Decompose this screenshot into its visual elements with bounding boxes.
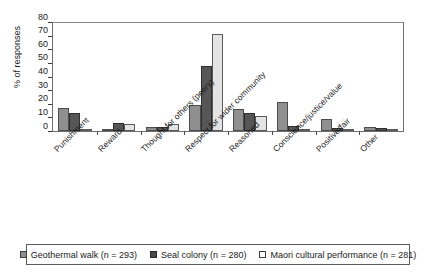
bar-group xyxy=(321,22,355,131)
x-tick-mark xyxy=(184,131,185,135)
y-tick-label: 60 xyxy=(24,39,48,48)
x-axis-tick-marks xyxy=(53,131,403,136)
bar-group xyxy=(58,22,92,131)
y-tick-label: 10 xyxy=(24,107,48,116)
legend-label: Seal colony (n = 280) xyxy=(161,250,246,260)
y-axis-tick-labels: 01020304050607080 xyxy=(24,16,48,132)
y-tick-mark xyxy=(48,49,52,50)
y-tick-mark xyxy=(48,104,52,105)
legend-item: Seal colony (n = 280) xyxy=(150,250,246,260)
bar xyxy=(277,102,288,131)
y-tick-mark xyxy=(48,63,52,64)
y-tick-label: 80 xyxy=(24,12,48,21)
legend-swatch-icon xyxy=(259,251,266,258)
legend-label: Geothermal walk (n = 293) xyxy=(31,250,137,260)
y-tick-mark xyxy=(48,22,52,23)
legend-label: Maori cultural performance (n = 281) xyxy=(270,250,416,260)
chart-legend: Geothermal walk (n = 293)Seal colony (n … xyxy=(26,244,410,265)
x-tick-mark xyxy=(272,131,273,135)
y-tick-label: 70 xyxy=(24,26,48,35)
x-tick-mark xyxy=(228,131,229,135)
bar xyxy=(124,124,135,131)
x-axis-category-labels: PunishmentRewardThought for others (peer… xyxy=(0,137,436,229)
y-tick-mark xyxy=(48,36,52,37)
bar-group xyxy=(364,22,398,131)
y-tick-label: 0 xyxy=(24,121,48,130)
x-tick-mark xyxy=(359,131,360,135)
y-tick-mark xyxy=(48,131,52,132)
bar xyxy=(58,108,69,131)
x-tick-mark xyxy=(316,131,317,135)
y-tick-label: 50 xyxy=(24,53,48,62)
y-tick-mark xyxy=(48,117,52,118)
legend-item: Maori cultural performance (n = 281) xyxy=(259,250,416,260)
y-tick-label: 30 xyxy=(24,80,48,89)
y-tick-mark xyxy=(48,90,52,91)
y-tick-label: 40 xyxy=(24,67,48,76)
x-tick-mark xyxy=(141,131,142,135)
legend-swatch-icon xyxy=(150,251,157,258)
bar xyxy=(233,109,244,131)
y-axis-title: % of responses xyxy=(12,9,22,105)
bar-chart-figure: % of responses 01020304050607080 Punishm… xyxy=(0,0,436,275)
y-tick-label: 20 xyxy=(24,94,48,103)
x-tick-mark xyxy=(97,131,98,135)
legend-item: Geothermal walk (n = 293) xyxy=(20,250,137,260)
bar-group xyxy=(102,22,136,131)
y-tick-mark xyxy=(48,77,52,78)
legend-swatch-icon xyxy=(20,251,27,258)
